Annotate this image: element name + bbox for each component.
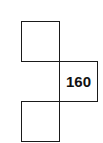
number-box-middle: 160	[59, 61, 98, 102]
box-diagram: 160	[0, 0, 103, 143]
empty-box-top	[21, 21, 60, 62]
empty-box-bottom	[21, 101, 60, 142]
